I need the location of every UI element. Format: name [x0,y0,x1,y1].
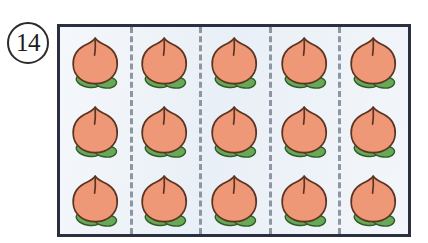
peach-icon [207,171,261,229]
peach-item [130,165,200,234]
problem-number-label: 14 [16,30,40,55]
problem-number-badge: 14 [7,22,49,64]
peach-item [199,165,269,234]
peach-item [60,165,130,234]
peach-item [338,27,408,96]
peach-group-box [57,24,411,237]
peach-icon [137,102,191,160]
peach-icon [277,102,331,160]
peach-icon [207,102,261,160]
peach-icon [346,33,400,91]
peach-item [269,27,339,96]
peach-item [269,165,339,234]
peach-icon [346,102,400,160]
peach-icon [68,171,122,229]
peach-icon [137,171,191,229]
peach-item [338,165,408,234]
peach-item [60,96,130,165]
peach-icon [277,33,331,91]
peach-item [60,27,130,96]
peach-item [269,96,339,165]
peach-item [130,27,200,96]
peach-icon [137,33,191,91]
peach-icon [277,171,331,229]
peach-icon [68,102,122,160]
peach-grid [60,27,408,234]
peach-icon [346,171,400,229]
peach-item [130,96,200,165]
peach-icon [207,33,261,91]
peach-item [338,96,408,165]
peach-icon [68,33,122,91]
peach-item [199,96,269,165]
peach-item [199,27,269,96]
